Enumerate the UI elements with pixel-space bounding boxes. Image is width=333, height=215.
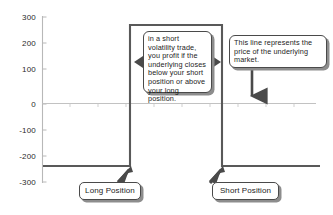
label-long-position: Long Position	[79, 182, 141, 200]
label-short-position: Short Position	[212, 182, 279, 200]
callout-strategy: in a short volatility trade, you profit …	[143, 31, 212, 93]
y-tick-label-200: 200	[6, 39, 36, 48]
callout-underlying-line: This line represents the price of the un…	[229, 35, 327, 68]
y-tick-label-0: 0	[6, 100, 36, 109]
left-arrow-icon	[134, 56, 143, 68]
payoff-chart-figure: 300 200 100 0 -100 -200 -300 in a short …	[0, 0, 333, 215]
y-tick-label-100: 100	[6, 65, 36, 74]
y-tick-label-neg100: -100	[6, 126, 36, 135]
y-tick-label-neg200: -200	[6, 152, 36, 161]
y-tick-label-neg300: -300	[6, 178, 36, 187]
y-tick-label-300: 300	[6, 13, 36, 22]
right-arrow-icon	[212, 56, 221, 68]
y-axis-ticks	[43, 17, 47, 182]
